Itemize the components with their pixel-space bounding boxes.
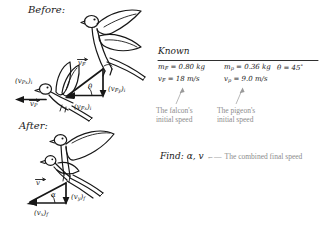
vector-arrow-accent: v bbox=[78, 60, 82, 67]
handwritten-physics-sketch: Before: After: (vPx)i vP vF θ (vFy)i (vF… bbox=[0, 0, 321, 225]
label-theta-before: θ bbox=[88, 84, 92, 91]
label-part: (v bbox=[34, 209, 41, 217]
label-final-velocity-vector: v bbox=[36, 180, 40, 187]
label-part: (v bbox=[15, 77, 22, 85]
mass-falcon-subscript: F bbox=[165, 65, 169, 71]
label-part: (v bbox=[108, 85, 115, 93]
mass-falcon-symbol: m bbox=[158, 63, 165, 71]
find-line: Find: α, v ←— The combined final speed bbox=[160, 152, 302, 161]
after-section-label: After: bbox=[19, 121, 48, 131]
vector-overbar-icon bbox=[35, 177, 47, 181]
known-heading: Known bbox=[158, 47, 189, 56]
speed-pigeon-subscript: p bbox=[228, 77, 231, 83]
label-falcon-y-initial: (vFy)i bbox=[108, 86, 125, 93]
annotation-line: The falcon's bbox=[156, 106, 193, 115]
label-subscript: i bbox=[124, 87, 126, 93]
label-pigeon-x-initial: (vPx)i bbox=[15, 78, 32, 85]
after-birds-drawing bbox=[41, 131, 115, 198]
mass-pigeon-subscript: p bbox=[231, 65, 234, 71]
label-final-x-component: (vx)f bbox=[34, 210, 48, 217]
label-subscript: i bbox=[90, 105, 92, 111]
mass-falcon-value: = 0.80 kg bbox=[170, 63, 205, 71]
known-angle: θ = 45° bbox=[277, 64, 303, 72]
label-subscript: P bbox=[34, 102, 37, 108]
mass-pigeon-symbol: m bbox=[224, 63, 231, 71]
mass-pigeon-value: = 0.36 kg bbox=[236, 63, 271, 71]
label-falcon-x-initial: (vFx)i bbox=[74, 104, 91, 111]
find-arrow-icon: ←— bbox=[207, 152, 222, 161]
speed-pigeon-value: = 9.0 m/s bbox=[233, 75, 267, 83]
label-pigeon-velocity-vector: vP bbox=[30, 101, 37, 108]
label-subscript: f bbox=[83, 195, 85, 201]
before-section-label: Before: bbox=[28, 5, 65, 15]
after-vector-triangle bbox=[27, 183, 70, 206]
find-unknowns: α, v bbox=[187, 152, 204, 161]
speed-falcon-subscript: F bbox=[162, 77, 166, 83]
known-speed-pigeon: vp = 9.0 m/s bbox=[224, 76, 267, 83]
known-row-masses: mF = 0.80 kg bbox=[158, 64, 205, 71]
falcon-drawing-before bbox=[81, 10, 145, 80]
pigeon-speed-annotation: The pigeon's initial speed bbox=[217, 106, 255, 125]
find-heading: Find: bbox=[160, 152, 184, 161]
label-subscript: i bbox=[31, 79, 33, 85]
label-subscript: f bbox=[46, 211, 48, 217]
vector-overbar-icon bbox=[77, 57, 89, 61]
label-subscript: F bbox=[82, 61, 86, 67]
annotation-line: The pigeon's bbox=[217, 106, 255, 115]
degree-sign: ° bbox=[300, 63, 302, 69]
annotation-line: initial speed bbox=[156, 115, 193, 124]
known-mass-pigeon: mp = 0.36 kg bbox=[224, 64, 271, 71]
vector-arrow-accent: v bbox=[36, 180, 40, 187]
angle-value: = 45 bbox=[283, 64, 300, 72]
label-falcon-velocity-vector: vF bbox=[78, 60, 85, 67]
angle-symbol: θ bbox=[277, 64, 281, 72]
label-part: (v bbox=[74, 103, 81, 111]
speed-falcon-value: = 18 m/s bbox=[168, 75, 200, 83]
find-note: The combined final speed bbox=[225, 152, 303, 161]
annotation-line: initial speed bbox=[217, 115, 255, 124]
label-final-y-component: (vy)f bbox=[71, 194, 85, 201]
vector-overbar-icon bbox=[29, 98, 41, 102]
pigeon-drawing-before bbox=[35, 62, 92, 121]
vector-arrow-accent: v bbox=[30, 101, 34, 108]
falcon-speed-annotation: The falcon's initial speed bbox=[156, 106, 193, 125]
label-part: (v bbox=[71, 193, 78, 201]
label-alpha-after: α bbox=[51, 192, 56, 199]
known-speed-falcon: vF = 18 m/s bbox=[158, 76, 200, 83]
